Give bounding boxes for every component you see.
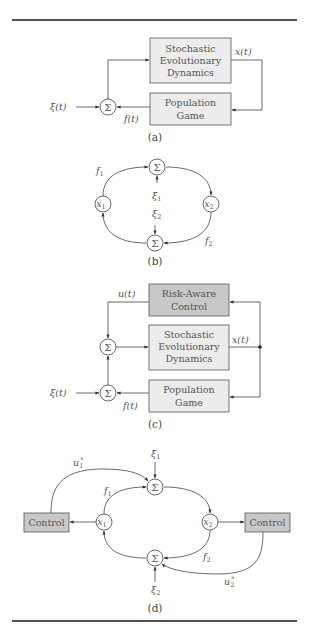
- signal-f-t: f(t): [123, 113, 139, 124]
- arrow-x2-to-sum-bottom: [164, 212, 211, 243]
- block-label-line: Population: [163, 384, 214, 395]
- signal-f1: f1: [103, 485, 112, 498]
- signal-f-t: f(t): [122, 400, 138, 411]
- signal-u1-star: u1*: [73, 456, 84, 470]
- sum-symbol: Σ: [104, 342, 111, 353]
- signal-f2: f2: [204, 235, 213, 248]
- signal-xi1: ξ1: [151, 448, 160, 461]
- sum-symbol: Σ: [151, 553, 158, 564]
- block-label-line: Risk-Aware: [162, 288, 217, 299]
- block-label-line: Population: [165, 97, 216, 108]
- block-label-line: Dynamics: [167, 67, 214, 78]
- junction-dot: [258, 345, 262, 349]
- arrow-sum-bottom-to-x1: [103, 213, 146, 243]
- caption-c: (c): [148, 418, 162, 430]
- block-label-line: Control: [249, 517, 285, 528]
- block-label-line: Evolutionary: [160, 55, 222, 66]
- arrow-sum-bottom-to-x1: [104, 531, 146, 558]
- caption-d: (d): [148, 602, 163, 614]
- signal-f2: f2: [202, 551, 211, 564]
- figure-canvas: Stochastic Evolutionary Dynamics Populat…: [0, 0, 310, 641]
- signal-xi2: ξ2: [151, 584, 160, 597]
- sum-symbol: Σ: [104, 388, 111, 399]
- signal-u-t: u(t): [118, 288, 136, 299]
- block-label-line: Evolutionary: [158, 341, 220, 352]
- panel-b: Σ x1 x2 Σ f1 f2 ξ1 ξ2 (b): [95, 159, 219, 267]
- signal-xi-t: ξ(t): [50, 387, 67, 398]
- sum-symbol: Σ: [151, 482, 158, 493]
- signal-xi1: ξ1: [152, 190, 161, 203]
- block-label-line: Game: [175, 397, 203, 408]
- signal-xi-t: ξ(t): [50, 101, 67, 112]
- block-label-line: Control: [28, 517, 64, 528]
- block-label-line: Stochastic: [165, 43, 215, 54]
- arrow-sum-top-to-x2: [164, 487, 210, 513]
- arrow-dynamics-to-game: [231, 60, 262, 110]
- block-label-line: Stochastic: [164, 329, 214, 340]
- panel-c: Risk-Aware Control Stochastic Evolutiona…: [50, 284, 262, 430]
- arrow-x1-to-sum-top: [103, 167, 148, 196]
- caption-b: (b): [148, 255, 163, 267]
- arrow-control-to-sum: [108, 302, 149, 338]
- signal-xi2: ξ2: [152, 208, 161, 221]
- signal-u2-star: u2*: [224, 575, 235, 589]
- arrow-u2-to-sum-bottom: [162, 532, 263, 574]
- block-label-line: Game: [177, 110, 205, 121]
- arrow-sum-top-to-x2: [166, 167, 211, 195]
- panel-a: Stochastic Evolutionary Dynamics Populat…: [50, 38, 262, 143]
- signal-x-t: x(t): [235, 46, 252, 57]
- arrow-state-to-game: [230, 347, 260, 397]
- sum-symbol: Σ: [151, 238, 158, 249]
- caption-a: (a): [148, 131, 162, 143]
- block-label-line: Dynamics: [165, 353, 212, 364]
- block-label-line: Control: [171, 301, 207, 312]
- sum-symbol: Σ: [104, 102, 111, 113]
- signal-x-t: x(t): [232, 334, 249, 345]
- arrow-sum-to-dynamics: [108, 60, 149, 99]
- panel-d: Control Control Σ x1 x2 Σ u1* f1 f2 u2* …: [24, 448, 290, 614]
- arrow-u1-to-sum-top: [51, 469, 148, 513]
- sum-symbol: Σ: [153, 162, 160, 173]
- signal-f1: f1: [95, 165, 104, 178]
